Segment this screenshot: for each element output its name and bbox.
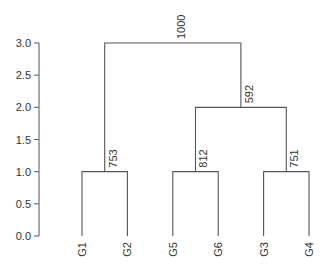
- dendrogram-branch: [264, 172, 309, 236]
- leaf-label: G2: [121, 242, 133, 257]
- y-axis: 0.00.51.01.52.02.53.0: [16, 37, 39, 242]
- node-label: 592: [243, 85, 255, 103]
- y-tick-label: 0.5: [16, 198, 31, 210]
- y-tick-label: 2.0: [16, 101, 31, 113]
- dendrogram-branch: [82, 172, 127, 236]
- leaf-label: G5: [167, 242, 179, 257]
- node-label: 751: [288, 149, 300, 167]
- dendrogram-branch: [173, 172, 218, 236]
- node-labels: 7538127515921000: [107, 15, 301, 168]
- y-tick-label: 2.5: [16, 69, 31, 81]
- leaf-label: G4: [303, 242, 315, 257]
- y-tick-label: 3.0: [16, 37, 31, 49]
- dendrogram-chart: 0.00.51.01.52.02.53.0 7538127515921000 G…: [0, 0, 328, 268]
- leaf-label: G3: [258, 242, 270, 257]
- leaf-label: G1: [76, 242, 88, 257]
- node-label: 753: [107, 149, 119, 167]
- node-label: 812: [198, 149, 210, 167]
- leaf-labels: G1G2G5G6G3G4: [76, 242, 315, 257]
- y-tick-label: 1.5: [16, 134, 31, 146]
- dendrogram-branches: [82, 43, 309, 236]
- node-label: 1000: [175, 15, 187, 39]
- y-tick-label: 0.0: [16, 230, 31, 242]
- leaf-label: G6: [212, 242, 224, 257]
- y-tick-label: 1.0: [16, 166, 31, 178]
